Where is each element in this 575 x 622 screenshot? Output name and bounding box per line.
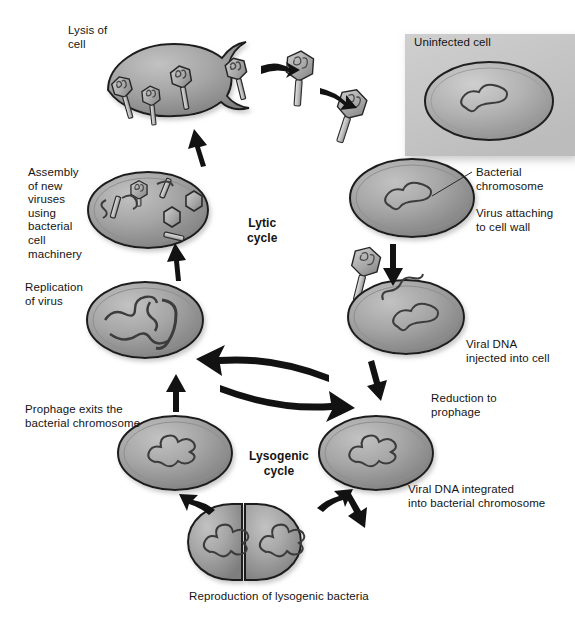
- viral-dna-integrated-stage: [319, 416, 433, 490]
- label-viral-dna-integrated: Viral DNA integrated into bacterial chro…: [408, 483, 545, 510]
- label-reduction-to-prophage: Reduction to prophage: [431, 392, 497, 419]
- arrow-assembly-to-lysis: [188, 129, 207, 167]
- label-virus-attaching: Virus attaching to cell wall: [476, 207, 553, 234]
- label-viral-dna-injected: Viral DNA injected into cell: [466, 338, 550, 365]
- replication-stage: [87, 282, 203, 358]
- arrow-replication-to-assembly: [167, 243, 186, 281]
- label-replication-of-virus: Replication of virus: [25, 281, 83, 308]
- arrow-prophage-exit-to-replication: [166, 374, 186, 412]
- free-phage-top: [284, 50, 314, 107]
- arrow-reproduction-to-prophage-exit: [179, 494, 215, 515]
- assembly-stage: [88, 172, 208, 248]
- label-uninfected-cell: Uninfected cell: [414, 36, 491, 50]
- lysogenic-cycle-label: Lysogenic cycle: [249, 449, 309, 478]
- arrow-lytic-to-lysogenic: [220, 385, 355, 422]
- diagram-artwork: [0, 0, 575, 622]
- uninfected-cell-inset: [405, 34, 575, 156]
- label-lysis-of-cell: Lysis of cell: [68, 24, 107, 51]
- label-reproduction-of-lysogenic-bacteria: Reproduction of lysogenic bacteria: [189, 590, 369, 604]
- empty-head-2: [186, 191, 202, 211]
- reproduction-stage: [188, 504, 304, 580]
- figure-canvas: Uninfected cell Lysis of cell Assembly o…: [0, 0, 575, 622]
- lytic-cycle-label: Lytic cycle: [247, 216, 278, 245]
- lysis-stage: [108, 42, 253, 126]
- arrow-lysogenic-to-lytic: [196, 345, 329, 382]
- virus-attaching-stage: [350, 159, 474, 237]
- arrow-reproduction-loop-right: [317, 489, 353, 512]
- label-bacterial-chromosome: Bacterial chromosome: [476, 166, 543, 193]
- viral-dna-injected-stage: [348, 274, 464, 354]
- uninfected-cell-stage: [425, 62, 553, 140]
- empty-head-1: [164, 207, 180, 227]
- label-assembly-of-new-viruses: Assembly of new viruses using bacterial …: [28, 166, 82, 261]
- label-prophage-exits: Prophage exits the bacterial chromosome: [25, 403, 140, 430]
- arrow-injected-to-integrated: [367, 360, 387, 401]
